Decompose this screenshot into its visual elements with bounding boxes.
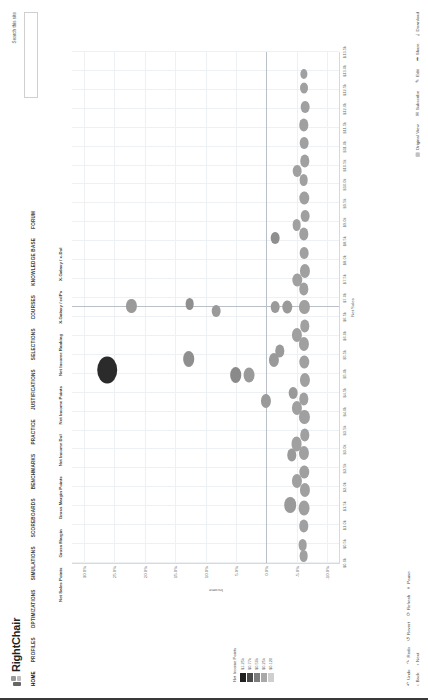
nav-item-forum[interactable]: FORUM: [31, 211, 36, 229]
subscribe-icon: ✉: [415, 112, 420, 116]
y-axis-tick: 25.0%: [112, 566, 117, 578]
scatter-point[interactable]: [299, 228, 308, 241]
scatter-point[interactable]: [126, 299, 136, 313]
y-axis-tick: 0.0%: [264, 566, 269, 576]
legend-value: $0.77k: [247, 658, 252, 670]
scatter-point[interactable]: [283, 301, 292, 314]
scatter-point[interactable]: [244, 368, 255, 383]
scatter-point[interactable]: [300, 465, 309, 478]
scatter-point[interactable]: [299, 174, 308, 186]
x-axis-tick: $6.0k: [342, 331, 347, 341]
scatter-point[interactable]: [300, 483, 310, 497]
scatter-point[interactable]: [299, 550, 308, 562]
scatter-point[interactable]: [299, 301, 309, 315]
x-axis-tick: $3.5k: [342, 426, 347, 436]
legend-item: $0.120: [267, 608, 274, 682]
layout-icon: ▤: [415, 152, 420, 157]
nav-item-home[interactable]: HOME: [31, 671, 36, 686]
scatter-point[interactable]: [292, 219, 301, 231]
nav-item-practice[interactable]: PRACTICE: [31, 419, 36, 444]
x-axis-label: Net Sales: [350, 298, 355, 317]
toolbar-button-next[interactable]: ›Next: [415, 653, 420, 666]
scatter-point[interactable]: [300, 429, 309, 442]
nav-item-knowledge-base[interactable]: KNOWLEDGE BASE: [31, 238, 36, 286]
toolbar-button-undo[interactable]: ↶Undo: [406, 670, 411, 687]
scatter-point[interactable]: [300, 247, 309, 259]
toolbar-button-download[interactable]: ⤓Download: [415, 12, 420, 36]
undo-icon: ↶: [406, 682, 411, 686]
x-axis-tick: $2.5k: [342, 463, 347, 473]
scatter-point[interactable]: [301, 101, 310, 113]
scatter-point[interactable]: [301, 210, 310, 222]
nav-item-justifications[interactable]: JUSTIFICATIONS: [31, 369, 36, 410]
scatter-point[interactable]: [300, 319, 309, 332]
toolbar-button-original-view[interactable]: ▤Original View: [415, 124, 420, 157]
scatter-point[interactable]: [300, 137, 309, 149]
legend-title: Net Income Points: [232, 608, 237, 682]
scatter-point[interactable]: [97, 356, 117, 383]
nav-item-profiles[interactable]: PROFILES: [31, 637, 36, 662]
y-axis-tick: -10.0%: [324, 566, 329, 580]
main-nav[interactable]: HOMEPROFILESOPTIMIZATIONSSIMULATIONSSCOR…: [31, 211, 36, 686]
legend-value: $1.25k: [240, 658, 245, 670]
nav-item-scoreboards[interactable]: SCOREBOARDS: [31, 498, 36, 537]
x-axis-tick: $1.0k: [342, 520, 347, 530]
scatter-point[interactable]: [293, 165, 302, 177]
scatter-point[interactable]: [230, 367, 242, 383]
scatter-point[interactable]: [299, 520, 308, 533]
nav-item-benchmarks[interactable]: BENCHMARKS: [31, 454, 36, 490]
toolbar-button-subscribe[interactable]: ✉Subscribe: [415, 91, 420, 117]
column-header: Net Sales Points: [58, 568, 63, 602]
pause-icon: ⏸: [406, 586, 411, 589]
scatter-point[interactable]: [300, 69, 307, 79]
view-toolbar-top[interactable]: ↶Undo↷Redo↺Revert⟳Refresh⏸Pause: [406, 571, 411, 686]
plot-area[interactable]: $0.0k$0.5k$1.0k$1.5k$2.0k$2.5k$3.0k$3.5k…: [72, 52, 340, 564]
x-axis-tick: $12.5k: [342, 84, 347, 96]
toolbar-button-label: Pause: [406, 571, 411, 583]
nav-item-simulations[interactable]: SIMULATIONS: [31, 546, 36, 580]
toolbar-button-redo[interactable]: ↷Redo: [406, 647, 411, 664]
x-axis-tick: $0.0k: [342, 558, 347, 568]
scatter-point[interactable]: [300, 356, 309, 369]
toolbar-button-label: Back: [415, 673, 420, 683]
toolbar-button-edit[interactable]: ✎Edit: [415, 69, 420, 83]
legend-swatch: [254, 673, 260, 682]
brand-logo[interactable]: RightChair: [10, 10, 22, 686]
site-search[interactable]: Search this site: [12, 12, 38, 98]
toolbar-button-share[interactable]: ➦Share: [415, 44, 420, 62]
scatter-point[interactable]: [300, 264, 310, 278]
column-header: X-Galaxy / edPs: [58, 291, 63, 324]
scatter-point[interactable]: [300, 374, 310, 388]
scatter-point[interactable]: [261, 394, 271, 408]
scatter-point[interactable]: [183, 351, 195, 367]
x-axis-tick: $4.0k: [342, 407, 347, 417]
nav-item-selections[interactable]: SELECTIONS: [31, 328, 36, 360]
scatter-point[interactable]: [275, 345, 284, 358]
toolbar-button-pause[interactable]: ⏸Pause: [406, 571, 411, 588]
nav-item-optimizations[interactable]: OPTIMIZATIONS: [31, 589, 36, 628]
scatter-point[interactable]: [299, 283, 308, 296]
scatter-point[interactable]: [300, 155, 309, 168]
scatter-point[interactable]: [212, 305, 221, 317]
toolbar-button-revert[interactable]: ↺Revert: [406, 622, 411, 641]
legend-item: $0.77k: [246, 608, 253, 682]
view-toolbar-right[interactable]: ▤Original View✉Subscribe✎Edit➦Share⤓Down…: [415, 12, 420, 157]
scatter-point[interactable]: [271, 302, 280, 314]
revert-icon: ↺: [406, 637, 411, 641]
scatter-point[interactable]: [291, 437, 302, 452]
toolbar-button-label: Edit: [415, 69, 420, 77]
scatter-point[interactable]: [271, 232, 280, 244]
toolbar-button-refresh[interactable]: ⟳Refresh: [406, 595, 411, 616]
scatter-point[interactable]: [299, 119, 308, 132]
nav-item-courses[interactable]: COURSES: [31, 295, 36, 319]
scatter-point[interactable]: [185, 298, 194, 310]
toolbar-button-label: Next: [415, 653, 420, 662]
toolbar-button-back[interactable]: ‹Back: [415, 673, 420, 686]
scatter-point[interactable]: [285, 497, 297, 513]
scatter-point[interactable]: [289, 387, 298, 399]
view-toolbar-left[interactable]: ‹Back›Next: [415, 653, 420, 686]
logo-mark-icon: [11, 675, 22, 686]
scatter-point[interactable]: [300, 83, 308, 94]
search-input[interactable]: [24, 12, 38, 98]
scatter-point[interactable]: [299, 501, 310, 516]
